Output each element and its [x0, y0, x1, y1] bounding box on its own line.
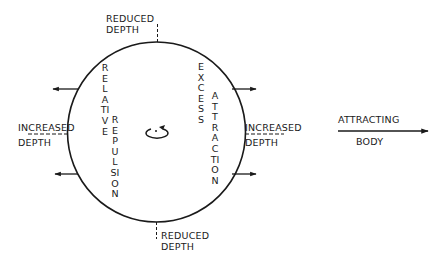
repulsion-vertical-text: REPULSION: [110, 115, 120, 200]
left-increased-depth-label: INCREASED DEPTH: [18, 120, 75, 150]
label-line: DEPTH: [245, 135, 302, 150]
attracting-label: ATTRACTING: [338, 114, 399, 125]
label-line: INCREASED: [245, 120, 302, 135]
label-line: DEPTH: [161, 241, 209, 252]
label-line: DEPTH: [18, 135, 75, 150]
label-line: REDUCED: [106, 13, 154, 24]
rotation-icon: [146, 125, 168, 138]
label-line: INCREASED: [18, 120, 75, 135]
right-increased-depth-label: INCREASED DEPTH: [245, 120, 302, 150]
excess-vertical-text: EXCESS: [196, 62, 206, 126]
relative-vertical-text: RELATIVE: [100, 63, 110, 137]
label-line: REDUCED: [161, 230, 209, 241]
bottom-reduced-depth-label: REDUCED DEPTH: [161, 230, 209, 252]
label-line: DEPTH: [106, 24, 154, 35]
attraction-vertical-text: ATTRACTION: [210, 91, 220, 186]
body-label: BODY: [356, 136, 383, 147]
top-reduced-depth-label: REDUCED DEPTH: [106, 13, 154, 35]
